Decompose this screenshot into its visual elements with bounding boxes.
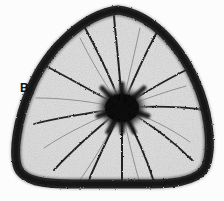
figure-panel: B <box>0 0 224 201</box>
specimen-illustration <box>0 0 224 201</box>
panel-label: B <box>20 82 29 94</box>
